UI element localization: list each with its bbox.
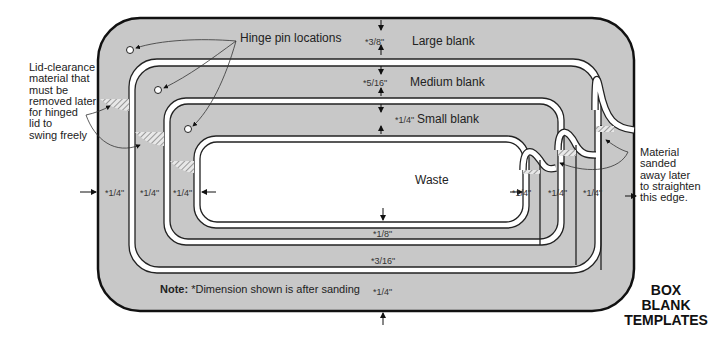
hinge-pin-label: Hinge pin locations xyxy=(240,32,341,45)
dim-top-large: *3/8" xyxy=(365,37,384,47)
note-prefix: Note: xyxy=(160,283,188,295)
material-sanded-label: Material sanded away later to straighten… xyxy=(640,147,701,203)
dim-left-small: *1/4" xyxy=(173,188,192,198)
hinge-pin-medium xyxy=(155,87,162,94)
dim-right-small: *1/4" xyxy=(512,188,531,198)
dim-right-medium: *1/4" xyxy=(548,188,567,198)
dim-left-medium: *1/4" xyxy=(140,188,159,198)
waste-label: Waste xyxy=(415,174,449,187)
large-blank-label: Large blank xyxy=(412,35,475,48)
note-text: Note: *Dimension shown is after sanding xyxy=(160,283,360,296)
dim-left-large: *1/4" xyxy=(105,188,124,198)
note-body: *Dimension shown is after sanding xyxy=(188,283,360,295)
dim-bottom-large: *1/4" xyxy=(373,287,392,297)
sanded-hatch-small xyxy=(523,170,540,174)
diagram-title: BOX BLANK TEMPLATES xyxy=(622,283,710,328)
lid-clearance-label: Lid-clearance material that must be remo… xyxy=(29,62,96,141)
medium-blank-label: Medium blank xyxy=(410,76,485,89)
waste-region xyxy=(200,142,523,222)
small-blank-label: Small blank xyxy=(417,113,479,126)
dim-top-medium: *5/16" xyxy=(363,78,387,88)
sanded-hatch-large xyxy=(596,126,614,132)
dim-bottom-medium: *3/16" xyxy=(371,256,395,266)
dim-top-small: *1/4" xyxy=(395,115,414,125)
hinge-pin-small xyxy=(185,126,192,133)
dim-bottom-small: *1/8" xyxy=(373,229,392,239)
sanded-hatch-medium xyxy=(558,150,576,156)
hinge-pin-large xyxy=(127,47,134,54)
dim-right-large: *1/4" xyxy=(583,188,602,198)
